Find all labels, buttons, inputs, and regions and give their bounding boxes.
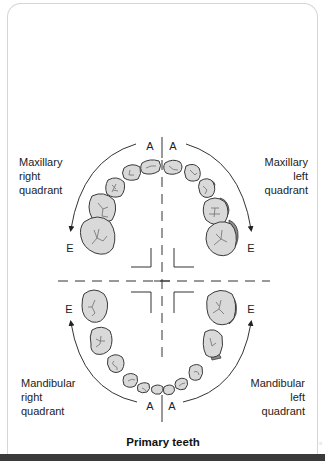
svg-text:left: left: [293, 170, 308, 182]
svg-text:right: right: [19, 170, 40, 182]
primary-teeth-diagram: Maxillary right quadrant Maxillary left …: [0, 0, 325, 461]
svg-text:Mandibular: Mandibular: [251, 377, 306, 389]
letter-upper-left-a: A: [169, 140, 177, 152]
svg-text:quadrant: quadrant: [19, 184, 62, 196]
label-mandibular-left: Mandibular left quadrant: [251, 377, 306, 417]
letter-lower-left-e: E: [247, 303, 254, 315]
letter-lower-right-a: A: [146, 400, 154, 412]
svg-text:quadrant: quadrant: [21, 405, 64, 417]
svg-text:quadrant: quadrant: [262, 405, 305, 417]
svg-text:Maxillary: Maxillary: [19, 156, 63, 168]
letter-lower-right-e: E: [65, 303, 72, 315]
figure-caption: Primary teeth: [126, 436, 200, 448]
svg-text:right: right: [21, 391, 42, 403]
svg-text:quadrant: quadrant: [265, 184, 308, 196]
svg-text:left: left: [290, 391, 305, 403]
label-mandibular-right: Mandibular right quadrant: [21, 377, 76, 417]
label-maxillary-right: Maxillary right quadrant: [19, 156, 63, 196]
label-maxillary-left: Maxillary left quadrant: [265, 156, 309, 196]
letter-upper-right-a: A: [146, 140, 154, 152]
letter-upper-left-e: E: [247, 242, 254, 254]
letter-upper-right-e: E: [66, 242, 73, 254]
bottom-bar: [0, 454, 325, 461]
svg-text:Maxillary: Maxillary: [265, 156, 309, 168]
svg-text:Mandibular: Mandibular: [21, 377, 76, 389]
side-copyright-note: ©: [318, 350, 324, 446]
maxillary-left-teeth: [164, 160, 238, 255]
letter-lower-left-a: A: [168, 400, 176, 412]
